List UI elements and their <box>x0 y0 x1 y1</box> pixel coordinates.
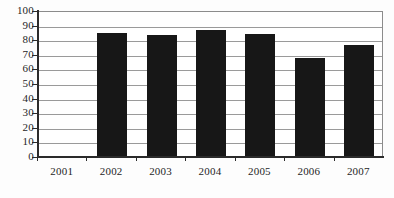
x-tick-mark-5 <box>284 157 285 161</box>
x-tick-label-2001: 2001 <box>38 166 86 177</box>
x-axis-line <box>37 156 384 158</box>
bar-2004 <box>196 30 226 156</box>
x-tick-mark-4 <box>235 157 236 161</box>
y-tick-mark-90 <box>32 26 37 27</box>
bar-2005 <box>245 34 275 156</box>
x-tick-mark-2 <box>136 157 137 161</box>
y-tick-mark-30 <box>32 113 37 114</box>
x-tick-mark-6 <box>334 157 335 161</box>
y-tick-label-80: 80 <box>2 34 34 45</box>
y-tick-label-50: 50 <box>2 78 34 89</box>
x-tick-label-2006: 2006 <box>285 166 333 177</box>
bar-2007 <box>344 45 374 156</box>
y-tick-label-10: 10 <box>2 136 34 147</box>
y-tick-label-20: 20 <box>2 122 34 133</box>
bar-2002 <box>97 33 127 156</box>
x-tick-label-2007: 2007 <box>334 166 382 177</box>
y-tick-label-30: 30 <box>2 107 34 118</box>
x-tick-mark-3 <box>185 157 186 161</box>
gridline-90 <box>38 27 382 28</box>
y-tick-label-100: 100 <box>2 5 34 16</box>
bar-chart: 0102030405060708090100 20012002200320042… <box>0 0 394 198</box>
plot-area <box>37 11 383 157</box>
y-tick-label-40: 40 <box>2 93 34 104</box>
y-axis-line <box>37 10 39 158</box>
y-tick-label-0: 0 <box>2 151 34 162</box>
x-tick-mark-0 <box>37 157 38 161</box>
x-tick-label-2003: 2003 <box>137 166 185 177</box>
y-tick-mark-60 <box>32 69 37 70</box>
x-tick-label-2002: 2002 <box>87 166 135 177</box>
y-tick-mark-70 <box>32 55 37 56</box>
y-tick-label-90: 90 <box>2 20 34 31</box>
bar-2003 <box>147 35 177 156</box>
y-tick-label-60: 60 <box>2 63 34 74</box>
y-tick-mark-20 <box>32 128 37 129</box>
y-tick-label-70: 70 <box>2 49 34 60</box>
bar-2006 <box>295 58 325 156</box>
y-tick-mark-50 <box>32 84 37 85</box>
x-tick-label-2005: 2005 <box>235 166 283 177</box>
y-tick-mark-40 <box>32 99 37 100</box>
y-tick-mark-100 <box>32 11 37 12</box>
y-tick-mark-80 <box>32 40 37 41</box>
x-tick-mark-1 <box>86 157 87 161</box>
x-tick-label-2004: 2004 <box>186 166 234 177</box>
y-tick-mark-10 <box>32 142 37 143</box>
